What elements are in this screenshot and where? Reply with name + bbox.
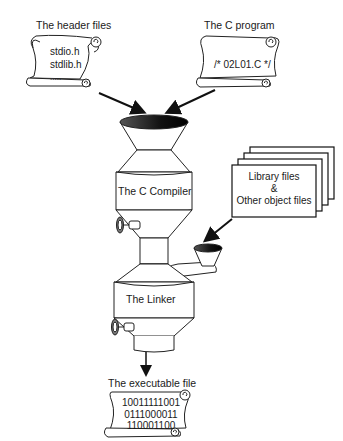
compiler-label: The C Compiler bbox=[118, 185, 192, 198]
c-program-title: The C program bbox=[204, 19, 275, 31]
header-file-line: ..... bbox=[50, 71, 82, 84]
arrow-header-to-compiler bbox=[99, 93, 143, 112]
library-line: & bbox=[232, 183, 316, 195]
binary-line: 110001100 bbox=[116, 420, 186, 432]
linker-machine bbox=[114, 264, 194, 352]
header-file-line: stdlib.h bbox=[50, 58, 82, 71]
executable-content: 10011111001 0111000011 110001100 bbox=[116, 397, 186, 432]
header-file-line: stdio.h bbox=[50, 45, 82, 58]
library-files-content: Library files & Other object files bbox=[232, 171, 316, 207]
library-line: Library files bbox=[232, 171, 316, 183]
executable-title: The executable file bbox=[108, 377, 196, 389]
header-files-title: The header files bbox=[36, 19, 111, 31]
header-files-content: stdio.h stdlib.h ..... bbox=[50, 45, 82, 84]
binary-line: 0111000011 bbox=[116, 409, 186, 421]
binary-line: 10011111001 bbox=[116, 397, 186, 409]
arrow-program-to-compiler bbox=[168, 90, 215, 112]
linker-label: The Linker bbox=[126, 293, 176, 306]
arrow-library-to-linker bbox=[206, 219, 232, 240]
c-program-content: /* 02L01.C */ bbox=[214, 58, 271, 71]
library-line: Other object files bbox=[232, 195, 316, 207]
